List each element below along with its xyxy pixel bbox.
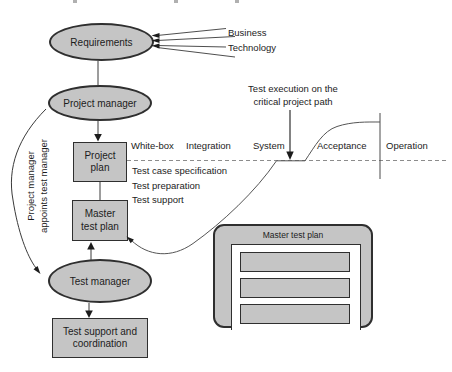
test-manager-label: Test manager xyxy=(70,276,131,287)
crop-artifact xyxy=(174,0,178,3)
activity-test-case-specification: Test case specification xyxy=(132,165,227,177)
master-plan-document-title: Master test plan xyxy=(215,230,371,240)
arrowhead-downright-icon xyxy=(34,266,41,274)
master-test-plan-node: Master test plan xyxy=(72,200,128,241)
technology-input-line xyxy=(157,46,226,48)
project-plan-node: Project plan xyxy=(73,142,127,182)
activity-test-support: Test support xyxy=(132,194,184,206)
arrowhead-down-icon xyxy=(85,311,93,319)
execution-note-line2: critical project path xyxy=(230,96,356,109)
input-line xyxy=(157,37,235,41)
project-plan-line1: Project xyxy=(84,150,115,163)
activity-test-preparation: Test preparation xyxy=(132,180,200,192)
diagram-canvas: Requirements Project manager Project pla… xyxy=(0,0,452,372)
crop-artifact xyxy=(235,0,239,3)
appointment-note-line1: Project manager xyxy=(24,128,37,244)
business-label: Business xyxy=(228,27,267,39)
arrowhead-down-icon xyxy=(94,134,102,142)
arrowhead-down-icon xyxy=(286,152,293,161)
execution-note: Test execution on the critical project p… xyxy=(230,83,356,108)
test-support-line2: coordination xyxy=(73,338,127,351)
master-test-plan-line2: test plan xyxy=(81,221,119,234)
master-plan-document: Master test plan xyxy=(213,224,373,328)
test-manager-node: Test manager xyxy=(48,259,152,303)
plan-section-bar xyxy=(240,278,350,298)
phase-white-box: White-box xyxy=(131,140,174,152)
plan-section-bar xyxy=(240,304,350,324)
phase-acceptance: Acceptance xyxy=(317,140,367,152)
input-line xyxy=(157,48,235,58)
phase-system: System xyxy=(253,140,285,152)
test-support-line1: Test support and xyxy=(63,326,137,339)
project-manager-node: Project manager xyxy=(48,85,152,121)
plan-section-bar xyxy=(240,252,350,272)
technology-label: Technology xyxy=(228,42,276,54)
requirements-label: Requirements xyxy=(70,37,132,48)
master-plan-pages xyxy=(231,244,361,330)
project-manager-label: Project manager xyxy=(63,98,136,109)
requirements-node: Requirements xyxy=(49,23,154,61)
master-test-plan-line1: Master xyxy=(85,208,116,221)
test-support-node: Test support and coordination xyxy=(52,318,148,358)
project-plan-line2: plan xyxy=(91,162,110,175)
phase-integration: Integration xyxy=(186,140,231,152)
business-input-line xyxy=(157,29,226,36)
crop-artifact xyxy=(73,0,77,3)
arrowhead-up-icon xyxy=(87,242,95,250)
appointment-note: Project manager appoints test manager xyxy=(24,128,50,244)
appointment-note-line2: appoints test manager xyxy=(37,128,50,244)
phase-operation: Operation xyxy=(386,140,428,152)
execution-note-line1: Test execution on the xyxy=(230,83,356,96)
